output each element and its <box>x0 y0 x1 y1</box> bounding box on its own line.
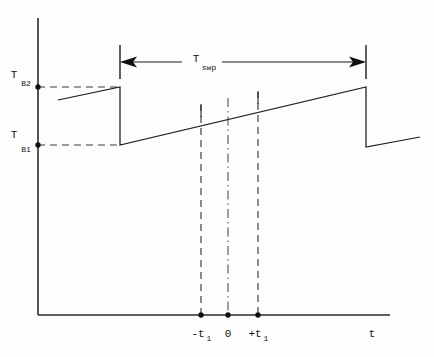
level-label-tb1-sub: B1 <box>21 145 31 154</box>
time-label-minus-t1-base: -t <box>191 328 204 340</box>
level-label-tb1-base: T <box>11 129 18 141</box>
level-dot-tb2 <box>35 84 40 89</box>
level-dot-tb1 <box>35 142 40 147</box>
figure-root: T B2 T B1 T swp -t 1 0 +t 1 t <box>0 0 434 357</box>
tswp-dimension-group <box>120 45 366 79</box>
level-label-tb2-base: T <box>11 69 18 81</box>
sawtooth-waveform <box>58 87 420 147</box>
tswp-label-base: T <box>193 53 200 65</box>
sawtooth-timing-diagram: T B2 T B1 T swp -t 1 0 +t 1 t <box>0 0 434 357</box>
level-label-tb2-sub: B2 <box>21 79 31 88</box>
time-label-plus-t1-base: +t <box>248 328 261 340</box>
text-labels: T B2 T B1 T swp -t 1 0 +t 1 t <box>11 53 376 343</box>
ramp-cross-ticks <box>201 92 258 117</box>
tswp-label-sub: swp <box>202 63 217 72</box>
time-drop-lines <box>201 91 258 315</box>
time-axis-label: t <box>369 328 376 340</box>
time-dot-plus-t1 <box>255 312 260 317</box>
time-label-plus-t1-sub: 1 <box>264 334 269 343</box>
time-label-zero: 0 <box>225 328 232 340</box>
time-label-minus-t1-sub: 1 <box>207 334 212 343</box>
time-dot-minus-t1 <box>198 312 203 317</box>
time-dot-zero <box>225 312 230 317</box>
waveform-group <box>58 87 420 147</box>
